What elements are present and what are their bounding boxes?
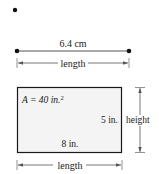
arrow-up-icon <box>138 88 141 93</box>
segment-endpoint-left <box>15 49 20 54</box>
arrow-right-icon <box>123 61 128 64</box>
top-length-label: length <box>61 58 86 69</box>
height-label: height <box>126 115 150 125</box>
area-label: A = 40 in.2 <box>21 94 64 106</box>
bottom-length-label: length <box>58 160 83 171</box>
arrow-left-icon <box>18 163 23 166</box>
arrow-left-icon <box>18 61 23 64</box>
diagram: 6.4 cm length A = 40 in.2 5 in. 8 in. he… <box>0 0 159 174</box>
segment-endpoint-right <box>127 49 132 54</box>
bottom-label: 8 in. <box>62 139 79 149</box>
arrow-down-icon <box>138 147 141 152</box>
lone-point <box>13 8 17 12</box>
bottom-length-dimension: length <box>17 160 122 171</box>
top-length-dimension: length <box>17 58 129 69</box>
height-dimension: height <box>125 88 159 153</box>
arrow-right-icon <box>116 163 121 166</box>
side-label: 5 in. <box>101 115 118 125</box>
segment-label: 6.4 cm <box>59 38 86 49</box>
